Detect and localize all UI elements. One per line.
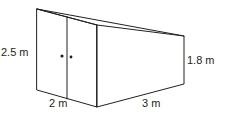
door-handle-right-icon (70, 56, 73, 59)
side-face (97, 25, 184, 107)
label-width: 2 m (49, 97, 67, 109)
roof-back-edge (37, 9, 184, 36)
door-handle-left-icon (60, 54, 63, 57)
label-left-height: 2.5 m (1, 46, 29, 58)
label-right-height: 1.8 m (187, 54, 215, 66)
label-length: 3 m (142, 97, 160, 109)
shed-diagram: 2.5 m 1.8 m 2 m 3 m (0, 0, 225, 129)
